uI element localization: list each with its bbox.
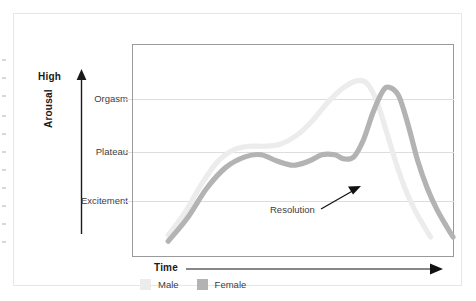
- legend-item-female: Female: [197, 279, 247, 290]
- gridline-orgasm: [133, 99, 454, 100]
- chart-figure: High Arousal Orgasm Plateau Excitement: [0, 0, 476, 301]
- gridline-excitement: [133, 201, 454, 202]
- chart-card: High Arousal Orgasm Plateau Excitement: [13, 13, 462, 286]
- legend-label-female: Female: [215, 279, 247, 290]
- x-axis: Time: [154, 261, 444, 277]
- gridline-plateau: [133, 152, 454, 153]
- scan-edge-artifacts: [0, 55, 9, 255]
- legend-swatch-male-icon: [140, 279, 151, 290]
- ytick-label-excitement: Excitement: [81, 195, 128, 206]
- chart-legend: Male Female: [140, 277, 264, 291]
- annotation-resolution: Resolution: [270, 204, 315, 215]
- ytick-label-orgasm: Orgasm: [94, 93, 128, 104]
- legend-swatch-female-icon: [197, 279, 208, 290]
- legend-label-male: Male: [158, 279, 179, 290]
- legend-item-male: Male: [140, 279, 179, 290]
- axis-label-high: High: [38, 71, 61, 82]
- plot-area: [132, 44, 454, 257]
